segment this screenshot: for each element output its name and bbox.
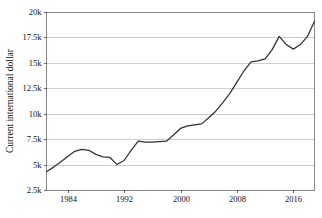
series-line <box>47 21 315 172</box>
y-tick-label: 2.5k <box>27 185 43 195</box>
line-chart: 2.5k5k7.5k10k12.5k15k17.5k20k 1984199220… <box>0 0 322 218</box>
y-tick-label: 10k <box>29 109 43 119</box>
gridlines-group <box>47 38 315 166</box>
y-tick-label: 15k <box>29 58 43 68</box>
y-tick-label: 17.5k <box>22 32 42 42</box>
y-tick-label: 5k <box>33 160 42 170</box>
x-tick-label: 2000 <box>173 194 190 204</box>
x-tick-label: 1992 <box>116 194 133 204</box>
chart-container: 2.5k5k7.5k10k12.5k15k17.5k20k 1984199220… <box>0 0 322 218</box>
series-group <box>47 21 315 172</box>
y-tick-labels-group: 2.5k5k7.5k10k12.5k15k17.5k20k <box>22 7 46 195</box>
x-tick-labels-group: 19841992200020082016 <box>60 194 302 204</box>
x-tick-label: 2016 <box>285 194 302 204</box>
axes-group <box>47 12 316 191</box>
x-tick-label: 2008 <box>229 194 246 204</box>
y-tick-label: 20k <box>29 7 43 17</box>
y-tick-label: 12.5k <box>22 83 42 93</box>
y-tick-label: 7.5k <box>27 134 43 144</box>
x-tick-label: 1984 <box>60 194 78 204</box>
y-axis-label: Current international dollar <box>5 48 15 153</box>
